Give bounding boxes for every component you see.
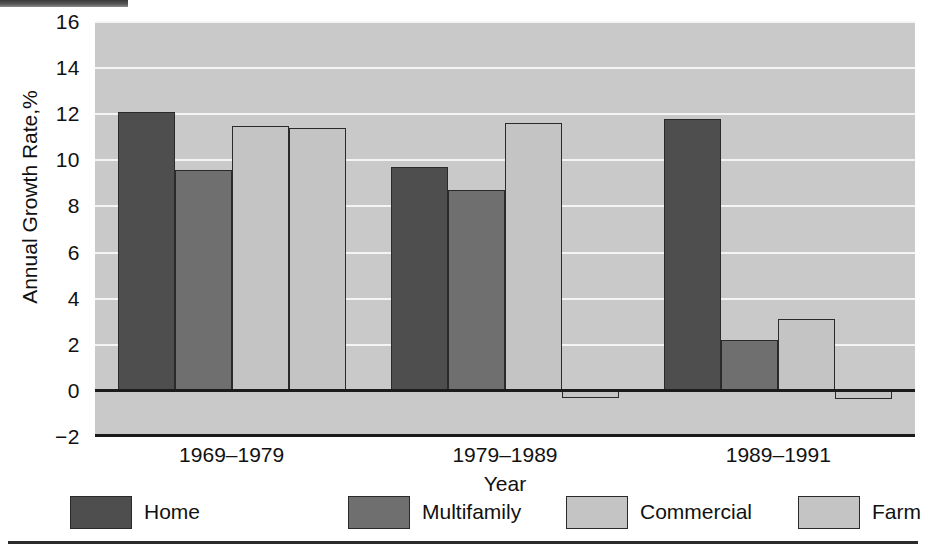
y-axis-tick-label: 6 (68, 241, 80, 265)
x-axis-tick-label: 1979–1989 (452, 443, 557, 467)
bar-commercial-1979–1989 (505, 123, 562, 390)
legend-item-farm[interactable]: Farm (798, 495, 921, 529)
bar-home-1979–1989 (391, 167, 448, 391)
x-axis-tick-label: 1969–1979 (179, 443, 284, 467)
x-axis-tick-labels: 1969–19791979–19891989–1991 (95, 443, 915, 469)
bar-multifamily-1979–1989 (448, 190, 505, 391)
bottom-axis-line (95, 434, 915, 437)
bar-series-container (95, 22, 915, 437)
y-axis-tick-label: 4 (68, 287, 80, 311)
legend-item-home[interactable]: Home (70, 495, 200, 529)
legend-swatch-commercial (566, 496, 628, 529)
bottom-rule (8, 541, 918, 544)
bar-farm-1969–1979 (289, 128, 346, 391)
bar-multifamily-1989–1991 (721, 340, 778, 391)
zero-axis-line (95, 389, 915, 392)
bar-commercial-1989–1991 (778, 319, 835, 390)
bar-home-1989–1991 (664, 119, 721, 391)
legend-label: Home (144, 500, 200, 524)
bar-chart-figure: Annual Growth Rate,% −20246810121416 196… (0, 0, 925, 550)
x-axis-title: Year (95, 472, 915, 496)
y-axis-tick-label: 14 (56, 56, 80, 80)
scan-artifact (0, 0, 128, 7)
legend-label: Multifamily (422, 500, 521, 524)
y-axis-tick-label: 12 (56, 102, 80, 126)
legend-swatch-home (70, 496, 132, 529)
y-axis-tick-label: 0 (68, 379, 80, 403)
bar-commercial-1969–1979 (232, 126, 289, 391)
x-axis-tick-label: 1989–1991 (726, 443, 831, 467)
y-axis-tick-label: 16 (56, 10, 80, 34)
legend-item-multifamily[interactable]: Multifamily (348, 495, 521, 529)
y-axis-tick-label: 8 (68, 194, 80, 218)
bar-multifamily-1969–1979 (175, 170, 232, 391)
legend-swatch-multifamily (348, 496, 410, 529)
y-axis-tick-labels: −20246810121416 (0, 22, 88, 437)
chart-legend: HomeMultifamilyCommercialFarm (70, 495, 925, 533)
legend-swatch-farm (798, 496, 860, 529)
legend-item-commercial[interactable]: Commercial (566, 495, 752, 529)
legend-label: Farm (872, 500, 921, 524)
y-axis-tick-label: 10 (56, 148, 80, 172)
y-axis-tick-label: 2 (68, 333, 80, 357)
bar-home-1969–1979 (118, 112, 175, 391)
y-axis-tick-label: −2 (55, 425, 80, 449)
legend-label: Commercial (640, 500, 752, 524)
plot-area (95, 22, 915, 437)
